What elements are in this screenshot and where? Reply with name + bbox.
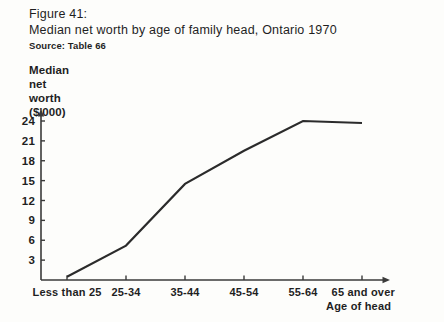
x-axis-title: Age of head	[326, 300, 391, 312]
y-tick-label: 9	[9, 214, 35, 226]
y-tick-label: 18	[9, 155, 35, 167]
x-tick-label: 65 and over	[332, 286, 395, 298]
x-tick-label: Less than 25	[32, 286, 101, 298]
figure-page: Figure 41: Median net worth by age of fa…	[0, 0, 444, 322]
y-tick-label: 24	[9, 115, 35, 127]
tick-marks-group	[41, 121, 362, 280]
y-axis-arrowhead	[38, 109, 44, 117]
y-tick-label: 3	[9, 254, 35, 266]
x-tick-label: 45-54	[229, 286, 258, 298]
y-tick-label: 6	[9, 234, 35, 246]
y-tick-label: 21	[9, 135, 35, 147]
x-tick-label: 35-44	[170, 286, 199, 298]
data-series-line	[67, 121, 362, 277]
x-tick-label: 55-64	[288, 286, 317, 298]
axes-group	[38, 109, 390, 283]
y-tick-label: 12	[9, 195, 35, 207]
y-tick-label: 15	[9, 175, 35, 187]
x-axis-arrowhead	[383, 277, 391, 283]
x-tick-label: 25-34	[111, 286, 140, 298]
line-chart-canvas	[0, 0, 444, 322]
